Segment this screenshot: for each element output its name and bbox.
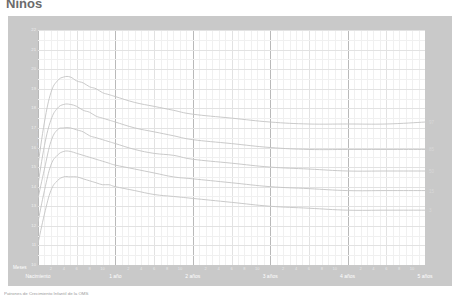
x-axis-month-label: 4 (63, 266, 65, 271)
y-axis-tick-label: 21 (16, 48, 36, 52)
x-axis-month-label: 8 (88, 266, 90, 271)
y-axis-ticks: 10111213141516171819202122 (14, 30, 36, 265)
percentile-labels: 978550153 (427, 30, 453, 265)
y-axis-tick-label: 17 (16, 126, 36, 130)
x-axis-month-label: 4 (372, 266, 374, 271)
x-axis-year-label: 5 años (417, 273, 432, 279)
x-axis-month-label: 2 (50, 266, 52, 271)
x-axis-month-label: 10 (410, 266, 414, 271)
x-axis-year-label: Nacimiento (25, 273, 50, 279)
x-axis-month-label: 2 (127, 266, 129, 271)
x-axis-month-label: 6 (153, 266, 155, 271)
y-axis-tick-label: 22 (16, 28, 36, 32)
x-axis-month-label: 6 (385, 266, 387, 271)
y-axis-tick-label: 15 (16, 165, 36, 169)
y-axis-tick-label: 13 (16, 204, 36, 208)
percentile-label-97: 97 (429, 120, 434, 125)
x-axis-month-label: 8 (166, 266, 168, 271)
x-axis-month-label: 6 (76, 266, 78, 271)
x-axis-month-label: 8 (243, 266, 245, 271)
x-axis-month-label: 10 (255, 266, 259, 271)
x-axis-month-label: 2 (359, 266, 361, 271)
x-axis-month-label: 8 (398, 266, 400, 271)
y-axis-tick-label: 19 (16, 87, 36, 91)
plot-area (38, 30, 425, 265)
x-axis-month-label: 10 (332, 266, 336, 271)
percentile-curve-3 (38, 177, 425, 244)
x-axis-year-label: 1 año (109, 273, 122, 279)
y-axis-tick-label: 12 (16, 224, 36, 228)
chart-panel: IMC (kg/m²) 10111213141516171819202122 M… (8, 16, 452, 286)
x-axis-month-label: 4 (217, 266, 219, 271)
x-axis-year-label: 3 años (263, 273, 278, 279)
x-axis-month-label: 10 (100, 266, 104, 271)
percentile-label-85: 85 (429, 147, 434, 152)
page-title: Niños (6, 0, 42, 11)
x-axis-month-label: 10 (178, 266, 182, 271)
y-axis-tick-label: 20 (16, 67, 36, 71)
x-axis-unit-label: Meses (13, 265, 27, 270)
x-axis-month-label: 6 (230, 266, 232, 271)
percentile-label-3: 3 (429, 208, 432, 213)
x-axis-year-label: 2 años (185, 273, 200, 279)
y-axis-tick-label: 11 (16, 243, 36, 247)
y-axis-tick-label: 18 (16, 106, 36, 110)
x-axis-year-label: 4 años (340, 273, 355, 279)
percentile-label-15: 15 (429, 188, 434, 193)
percentile-curves (38, 30, 425, 265)
x-axis-month-label: 4 (295, 266, 297, 271)
x-axis-year-ticks: Nacimiento1 año2 años3 años4 años5 años (38, 273, 425, 283)
percentile-curve-15 (38, 151, 425, 222)
y-axis-tick-label: 16 (16, 146, 36, 150)
percentile-curve-85 (38, 104, 425, 185)
percentile-label-50: 50 (429, 169, 434, 174)
footnote: Patrones de Crecimiento Infantil de la O… (4, 291, 457, 297)
x-axis-month-label: 2 (205, 266, 207, 271)
x-axis-month-label: 6 (308, 266, 310, 271)
percentile-curve-97 (38, 76, 425, 165)
x-axis-month-label: 4 (140, 266, 142, 271)
x-axis-month-label: 8 (321, 266, 323, 271)
x-axis-month-label: 2 (282, 266, 284, 271)
percentile-curve-50 (38, 128, 425, 199)
y-axis-tick-label: 14 (16, 185, 36, 189)
